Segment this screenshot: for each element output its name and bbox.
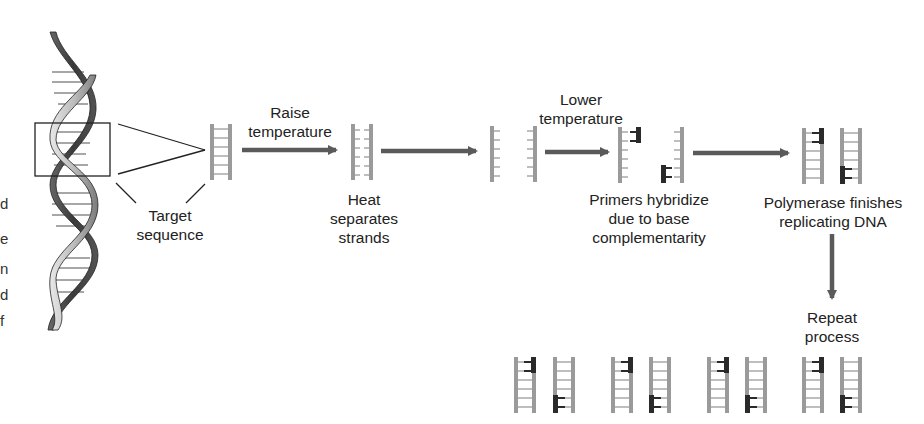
label-line: Raise	[240, 103, 340, 122]
target-ladder	[210, 124, 232, 180]
label-line: strands	[314, 228, 414, 247]
replicated-ladder-a	[802, 128, 824, 184]
label-lower-temperature: Lower temperature	[526, 90, 636, 128]
label-line: process	[792, 327, 872, 346]
label-line: temperature	[526, 109, 636, 128]
dna-helix-icon	[48, 32, 98, 330]
amplified-copies	[514, 357, 862, 413]
label-raise-temperature: Raise temperature	[240, 103, 340, 141]
label-line: Repeat	[792, 308, 872, 327]
heated-ladder	[351, 124, 373, 180]
label-line: due to base	[574, 209, 724, 228]
replicated-ladder-b	[840, 128, 862, 184]
label-line: Polymerase finishes	[748, 193, 918, 212]
label-line: sequence	[120, 225, 220, 244]
label-heat-separates: Heat separates strands	[314, 190, 414, 247]
label-repeat-process: Repeat process	[792, 308, 872, 346]
label-target-sequence: Target sequence	[120, 206, 220, 244]
primed-strands	[618, 127, 684, 183]
label-line: Target	[120, 206, 220, 225]
callout-lines	[116, 124, 205, 203]
label-line: separates	[314, 209, 414, 228]
separated-strands	[490, 126, 537, 182]
label-primers-hybridize: Primers hybridize due to base complement…	[574, 190, 724, 247]
label-line: Lower	[526, 90, 636, 109]
label-line: complementarity	[574, 228, 724, 247]
label-line: Heat	[314, 190, 414, 209]
label-line: replicating DNA	[748, 212, 918, 231]
label-polymerase-finishes: Polymerase finishes replicating DNA	[748, 193, 918, 231]
label-line: temperature	[240, 122, 340, 141]
label-line: Primers hybridize	[574, 190, 724, 209]
